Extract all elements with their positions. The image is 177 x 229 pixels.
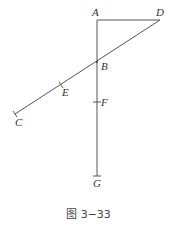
point-label-D: D — [155, 6, 164, 18]
point-label-E: E — [61, 86, 69, 98]
slanted-segment-DC — [15, 20, 160, 114]
point-label-A: A — [91, 6, 99, 18]
geometry-diagram: A D B E F C G — [0, 0, 177, 229]
point-label-F: F — [100, 96, 108, 108]
point-label-G: G — [93, 177, 101, 189]
point-label-B: B — [101, 60, 108, 72]
figure-caption: 图 3−33 — [0, 205, 177, 221]
point-label-C: C — [15, 116, 23, 128]
point-marker-B — [96, 61, 98, 63]
